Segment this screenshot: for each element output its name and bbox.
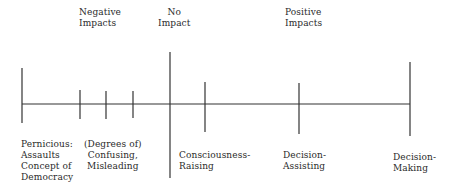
- negative-impacts-label: Negative Impacts: [79, 7, 121, 29]
- confusing-misleading-label: (Degrees of) Confusing, Misleading: [84, 139, 142, 172]
- positive-impacts-label: Positive Impacts: [285, 7, 322, 29]
- decision-making-label: Decision- Making: [393, 152, 436, 174]
- pernicious-label: Pernicious: Assaults Concept of Democrac…: [21, 139, 73, 183]
- consciousness-raising-label: Consciousness- Raising: [179, 150, 250, 172]
- no-impact-label: No Impact: [158, 7, 190, 29]
- decision-assisting-label: Decision- Assisting: [283, 150, 326, 172]
